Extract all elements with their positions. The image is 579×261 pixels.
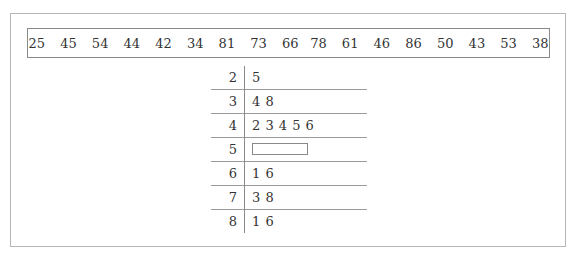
leaf-values: 2 3 4 5 6 bbox=[252, 114, 314, 138]
leaf-values: 4 8 bbox=[252, 90, 274, 114]
leaf-values: 1 6 bbox=[252, 210, 274, 234]
data-value: 81 bbox=[219, 36, 236, 51]
data-value: 25 bbox=[28, 36, 45, 51]
stem-row: 6 1 6 bbox=[211, 162, 367, 186]
stem-and-leaf-plot: 2 5 3 4 8 4 2 3 4 5 6 5 6 1 6 7 3 8 8 1 … bbox=[211, 66, 367, 234]
leaf-values: 3 8 bbox=[252, 186, 274, 210]
stem-row: 8 1 6 bbox=[211, 210, 367, 234]
stem-row: 3 4 8 bbox=[211, 90, 367, 114]
stem-row: 4 2 3 4 5 6 bbox=[211, 114, 367, 138]
stem-value: 7 bbox=[211, 186, 237, 210]
blank-answer-box bbox=[252, 143, 308, 155]
data-value: 61 bbox=[342, 36, 359, 51]
data-value: 66 bbox=[282, 36, 299, 51]
stem-value: 8 bbox=[211, 210, 237, 234]
data-value: 44 bbox=[124, 36, 141, 51]
stem-value: 5 bbox=[211, 138, 237, 162]
leaf-values: 1 6 bbox=[252, 162, 274, 186]
data-value: 42 bbox=[155, 36, 172, 51]
stem-value: 6 bbox=[211, 162, 237, 186]
stem-row: 2 5 bbox=[211, 66, 367, 90]
stem-value: 3 bbox=[211, 90, 237, 114]
data-value: 73 bbox=[250, 36, 267, 51]
data-value: 43 bbox=[469, 36, 486, 51]
data-values-box: 25 45 54 44 42 34 81 73 66 78 61 46 86 5… bbox=[27, 28, 550, 58]
stem-divider-line bbox=[244, 66, 245, 233]
data-value: 46 bbox=[374, 36, 391, 51]
data-values-list: 25 45 54 44 42 34 81 73 66 78 61 46 86 5… bbox=[23, 36, 554, 51]
leaf-values: 5 bbox=[252, 66, 260, 90]
data-value: 38 bbox=[532, 36, 549, 51]
data-value: 34 bbox=[187, 36, 204, 51]
data-value: 86 bbox=[405, 36, 422, 51]
stem-row: 7 3 8 bbox=[211, 186, 367, 210]
stem-value: 4 bbox=[211, 114, 237, 138]
stem-row: 5 bbox=[211, 138, 367, 162]
stem-value: 2 bbox=[211, 66, 237, 90]
data-value: 54 bbox=[92, 36, 109, 51]
data-value: 45 bbox=[60, 36, 77, 51]
data-value: 50 bbox=[437, 36, 454, 51]
data-value: 53 bbox=[500, 36, 517, 51]
data-value: 78 bbox=[310, 36, 327, 51]
